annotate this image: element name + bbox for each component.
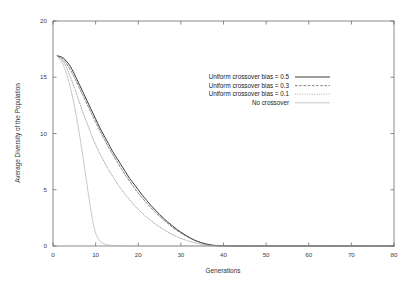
chart-background [0, 0, 415, 286]
x-tick-label: 50 [263, 251, 270, 258]
legend-label-3: No crossover [252, 99, 289, 106]
y-axis-title: Average Diversity of the Population [14, 83, 22, 183]
x-tick-label: 60 [305, 251, 312, 258]
y-tick-label: 15 [40, 73, 47, 80]
x-tick-label: 20 [135, 251, 142, 258]
y-tick-label: 0 [44, 242, 48, 249]
x-tick-label: 10 [92, 251, 99, 258]
line-chart: 01020304050607080 05101520 Generations A… [0, 0, 415, 286]
x-tick-label: 0 [51, 251, 55, 258]
y-tick-label: 10 [40, 130, 47, 137]
x-tick-label: 40 [220, 251, 227, 258]
chart-figure: 01020304050607080 05101520 Generations A… [0, 0, 415, 286]
legend-label-1: Uniform crossover bias = 0.3 [209, 82, 290, 89]
legend-label-2: Uniform crossover bias = 0.1 [209, 90, 290, 97]
x-axis-title: Generations [206, 267, 241, 274]
x-tick-label: 70 [348, 251, 355, 258]
x-tick-label: 30 [177, 251, 184, 258]
legend-label-0: Uniform crossover bias = 0.5 [209, 73, 290, 80]
y-tick-label: 20 [40, 17, 47, 24]
x-tick-label: 80 [391, 251, 398, 258]
y-tick-label: 5 [44, 186, 48, 193]
